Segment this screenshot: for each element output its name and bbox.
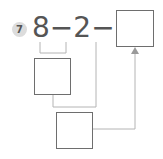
step2-box[interactable] xyxy=(56,112,93,149)
answer-box[interactable] xyxy=(116,10,154,47)
step1-box[interactable] xyxy=(34,58,71,95)
bracket-8-2 xyxy=(40,42,66,53)
connector-step2-to-answer xyxy=(93,52,135,129)
arrow-up-icon xyxy=(131,47,139,54)
